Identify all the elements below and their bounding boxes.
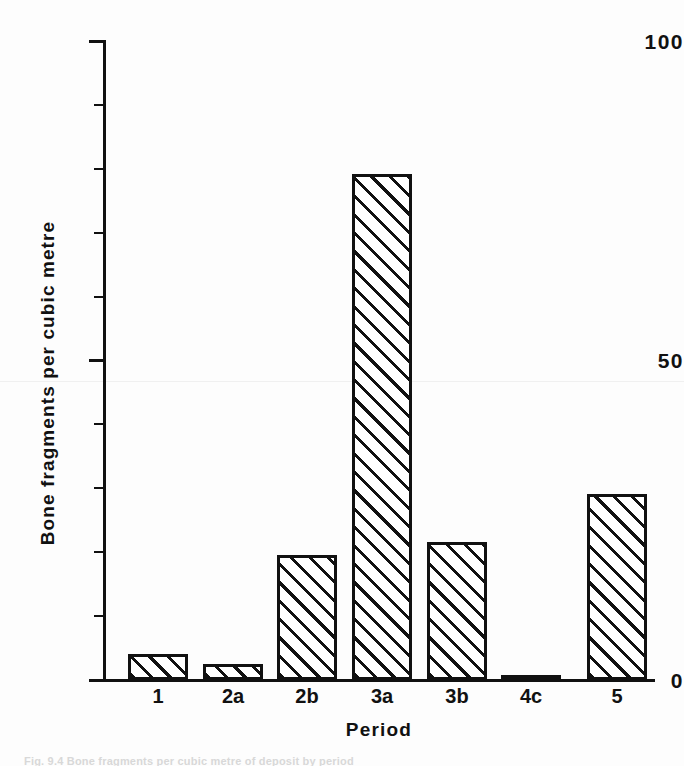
x-tick-label-3a: 3a: [352, 686, 412, 706]
y-tick-minor-40: [94, 423, 104, 425]
bar-period-5: [587, 494, 647, 680]
bar-period-2a: [203, 664, 263, 680]
y-tick-minor-10: [94, 615, 104, 617]
y-tick-minor-60: [94, 296, 104, 298]
y-axis-title: Bone fragments per cubic metre: [37, 73, 59, 693]
bar-period-3b: [427, 542, 487, 680]
figure-bar-chart: 100 50 0 1 2a 2b 3a 3b 4c 5 Period Bone …: [0, 0, 684, 766]
y-tick-100: [89, 40, 104, 43]
y-tick-50: [89, 359, 104, 362]
x-tick-label-2a: 2a: [203, 686, 263, 706]
bar-period-3a: [352, 174, 412, 680]
y-tick-label-50: 50: [602, 350, 684, 371]
y-tick-minor-20: [94, 551, 104, 553]
x-tick-label-3b: 3b: [427, 686, 487, 706]
y-tick-minor-90: [94, 104, 104, 106]
y-tick-0: [89, 679, 104, 682]
x-axis-title: Period: [103, 719, 655, 741]
x-tick-label-4c: 4c: [501, 686, 561, 706]
plot-area: 100 50 0 1 2a 2b 3a 3b 4c 5 Period Bone …: [0, 0, 684, 766]
x-tick-label-2b: 2b: [277, 686, 337, 706]
bar-period-4c: [501, 675, 561, 681]
bar-period-2b: [277, 555, 337, 680]
x-tick-label-1: 1: [128, 686, 188, 706]
y-tick-label-100: 100: [602, 31, 684, 52]
y-tick-minor-80: [94, 168, 104, 170]
y-tick-minor-70: [94, 232, 104, 234]
figure-caption: Fig. 9.4 Bone fragments per cubic metre …: [24, 755, 584, 766]
y-tick-minor-30: [94, 487, 104, 489]
bar-period-1: [128, 654, 188, 680]
x-tick-label-5: 5: [587, 686, 647, 706]
